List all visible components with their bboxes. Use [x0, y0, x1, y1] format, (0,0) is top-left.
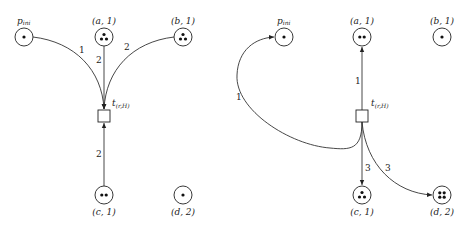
place-p-ini: pini — [275, 16, 293, 46]
arc-weight: 1 — [79, 45, 85, 55]
place-c1: (c, 1) — [92, 186, 116, 217]
svg-text:pini: pini — [277, 16, 291, 26]
arc-weight: 1 — [236, 92, 242, 102]
arc-weight: 1 — [355, 76, 361, 86]
svg-text:(c, 1): (c, 1) — [350, 207, 374, 217]
place-d2: (d, 2) — [430, 186, 455, 217]
arc-weight: 3 — [385, 163, 391, 173]
arc-weight: 3 — [365, 163, 371, 173]
place-b1: (b, 1) — [430, 16, 455, 46]
token — [22, 35, 25, 38]
transition-box — [98, 110, 110, 122]
place-b1: (b, 1) — [171, 16, 196, 46]
place-a1: (a, 1) — [92, 16, 116, 46]
place-a1: (a, 1) — [350, 16, 374, 46]
arc-weight: 2 — [96, 55, 102, 65]
place-d2: (d, 2) — [171, 186, 196, 217]
arc-weight: 2 — [124, 42, 130, 52]
svg-text:pini: pini — [17, 16, 31, 26]
transition-label: t(r,H) — [371, 98, 389, 109]
svg-text:(c, 1): (c, 1) — [92, 207, 116, 217]
svg-text:(a, 1): (a, 1) — [92, 16, 116, 26]
svg-text:(b, 1): (b, 1) — [171, 16, 196, 26]
left-net: 1 2 2 2 t(r,H) pini (a, 1) (b, 1) — [15, 16, 196, 217]
arc-t-to-d2 — [362, 122, 432, 195]
arc-weight: 2 — [96, 149, 102, 159]
transition-label: t(r,H) — [112, 98, 130, 109]
place-c1: (c, 1) — [350, 186, 374, 217]
petri-net-diagram: 1 2 2 2 t(r,H) pini (a, 1) (b, 1) — [0, 0, 468, 232]
arc-t-to-pini — [237, 37, 362, 149]
transition-box — [356, 110, 368, 122]
svg-text:(b, 1): (b, 1) — [430, 16, 455, 26]
svg-text:(a, 1): (a, 1) — [350, 16, 374, 26]
svg-text:(d, 2): (d, 2) — [171, 207, 196, 217]
right-net: 1 1 3 3 t(r,H) pini (a, 1) (b, 1) — [236, 16, 455, 217]
svg-text:(d, 2): (d, 2) — [430, 207, 455, 217]
place-p-ini: pini — [15, 16, 33, 46]
arc-pini-to-t — [33, 37, 104, 109]
